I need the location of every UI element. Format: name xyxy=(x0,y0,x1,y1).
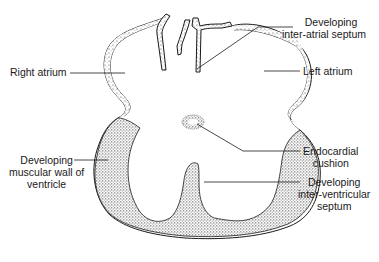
label-line: cushion xyxy=(303,157,358,169)
label-line: septum xyxy=(298,200,370,212)
label-line: inter-ventricular xyxy=(298,188,370,200)
atrial-wall-stipple xyxy=(104,16,310,130)
label-inter-atrial-septum: Developing inter-atrial septum xyxy=(296,16,366,40)
label-line: Endocardial xyxy=(303,145,358,157)
label-line: inter-atrial septum xyxy=(282,28,366,40)
label-muscular-wall: Developing muscular wall of ventricle xyxy=(9,154,84,190)
label-inter-ventricular-septum: Developing inter-ventricular septum xyxy=(298,176,370,212)
label-left-atrium: Left atrium xyxy=(303,65,353,77)
label-endocardial-cushion: Endocardial cushion xyxy=(303,145,358,169)
label-line: muscular wall of xyxy=(9,166,84,178)
label-line: ventricle xyxy=(9,178,84,190)
leader-endocardial xyxy=(197,124,300,151)
label-line: Developing xyxy=(9,154,84,166)
label-line: Developing xyxy=(298,176,370,188)
label-line: Developing xyxy=(296,16,366,28)
inter-atrial-septum-shape xyxy=(157,14,232,72)
endocardial-cushion-shape xyxy=(182,115,204,129)
ventricle-muscular-wall xyxy=(95,118,318,237)
label-right-atrium: Right atrium xyxy=(10,66,67,78)
